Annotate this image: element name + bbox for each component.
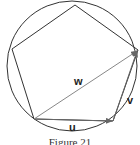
label-w: w <box>74 76 83 87</box>
label-u: u <box>69 122 76 133</box>
label-v: v <box>127 95 133 106</box>
figure-caption: Figure 21 <box>0 137 140 145</box>
circumscribed-circle <box>7 1 137 131</box>
